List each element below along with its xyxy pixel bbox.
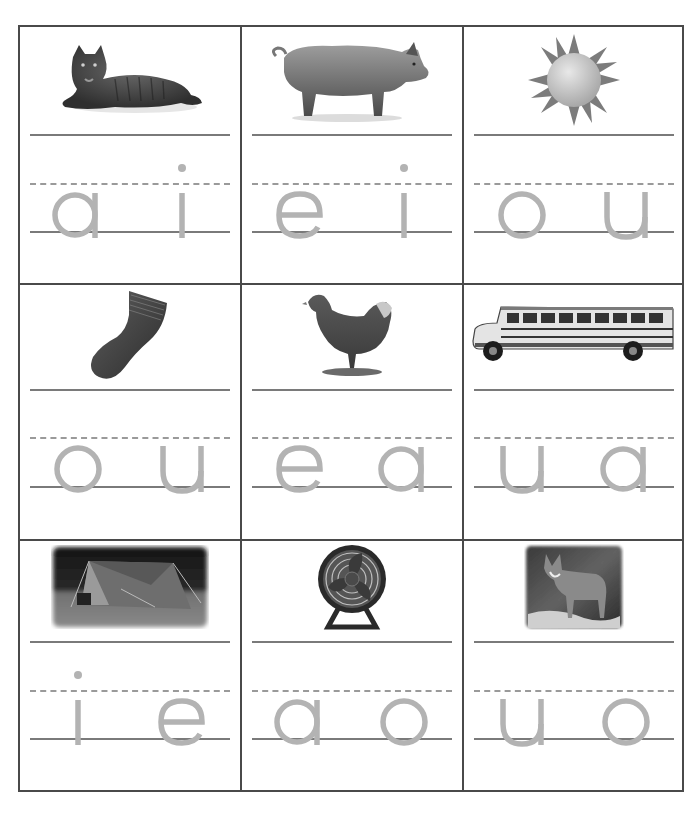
vowel-choice-i[interactable]: i [53,692,103,752]
top-guide-line [474,641,674,643]
vowel-choice-a[interactable]: a [379,439,429,499]
vowel-choice-e[interactable]: e [157,692,207,752]
picture-cell-fan: fanao [242,541,462,792]
picture-cell-fox: foxuo [464,541,684,792]
vowel-choice-u[interactable]: u [497,692,547,752]
picture-cell-pig: pigei [242,27,462,283]
fox-image [524,544,624,630]
picture-cell-sock: sockou [20,285,240,539]
picture-pig: pig [242,30,462,130]
picture-hen: hen [242,285,462,385]
vowel-choice-u[interactable]: u [601,185,651,245]
picture-cell-sun: sunou [464,27,684,283]
picture-sock: sock [20,285,240,385]
top-guide-line [30,134,230,136]
top-guide-line [252,134,452,136]
vowel-choice-o[interactable]: o [379,692,429,752]
sun-image [526,32,622,128]
picture-cell-hen: henea [242,285,462,539]
cat-image [55,45,205,115]
top-guide-line [252,641,452,643]
pig-image [272,36,432,124]
vowel-choice-e[interactable]: e [275,439,325,499]
vowel-choice-o[interactable]: o [497,185,547,245]
top-guide-line [252,389,452,391]
top-guide-line [474,389,674,391]
vowel-choice-u[interactable]: u [497,439,547,499]
top-guide-line [30,641,230,643]
vowel-choice-o[interactable]: o [53,439,103,499]
picture-sun: sun [464,30,684,130]
worksheet-grid: catai pigei sunou sockou henea [18,25,684,792]
vowel-choice-a[interactable]: a [53,185,103,245]
sock-image [85,287,175,383]
vowel-choice-i[interactable]: i [157,185,207,245]
top-guide-line [474,134,674,136]
vowel-choice-a[interactable]: a [601,439,651,499]
picture-cell-bus: busua [464,285,684,539]
vowel-choice-i[interactable]: i [379,185,429,245]
vowel-choice-a[interactable]: a [275,692,325,752]
vowel-choice-e[interactable]: e [275,185,325,245]
top-guide-line [30,389,230,391]
picture-cell-tent: tentie [20,541,240,792]
picture-cat: cat [20,30,240,130]
picture-fan: fan [242,537,462,637]
picture-cell-cat: catai [20,27,240,283]
tent-image [51,545,209,629]
hen-image [302,290,402,380]
picture-tent: tent [20,537,240,637]
fan-image [316,543,388,631]
picture-fox: fox [464,537,684,637]
picture-bus: bus [464,285,684,385]
vowel-choice-u[interactable]: u [157,439,207,499]
bus-image [471,303,677,367]
vowel-choice-o[interactable]: o [601,692,651,752]
